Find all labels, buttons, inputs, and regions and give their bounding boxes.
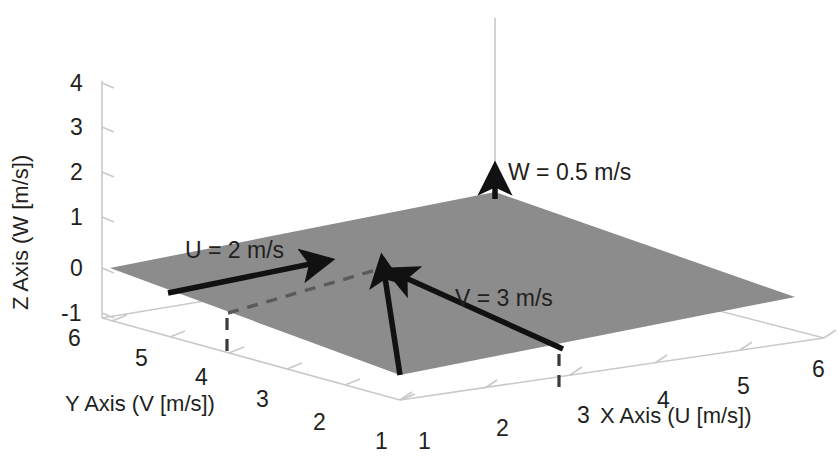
z-tick-label: 1 — [70, 206, 83, 229]
u-vector-label: U = 2 m/s — [185, 239, 284, 262]
figure-3d-velocity-vectors: 4 3 2 1 0 -1 6 5 4 3 2 1 1 2 3 4 5 6 Z A… — [0, 0, 839, 461]
z-axis-ticks — [102, 83, 114, 318]
z-tick-label: 0 — [70, 257, 83, 280]
y-tick-label: 3 — [256, 388, 269, 411]
x-tick-label: 6 — [812, 358, 825, 381]
z-tick-label: 2 — [70, 161, 83, 184]
x-tick-label: 5 — [737, 375, 750, 398]
z-tick-label: 4 — [70, 72, 83, 95]
y-axis-title: Y Axis (V [m/s]) — [65, 393, 215, 415]
z-tick-label: 3 — [70, 116, 83, 139]
x-tick-label: 3 — [577, 404, 590, 427]
y-tick-label: 6 — [68, 327, 81, 350]
x-axis-title: X Axis (U [m/s]) — [600, 405, 752, 427]
z-tick-label: -1 — [61, 302, 81, 325]
w-vector-label: W = 0.5 m/s — [508, 161, 631, 184]
x-tick-label: 2 — [496, 417, 509, 440]
y-tick-label: 4 — [195, 366, 208, 389]
x-tick-label: 1 — [418, 430, 431, 453]
y-tick-label: 1 — [375, 430, 388, 453]
v-vector-label: V = 3 m/s — [455, 287, 553, 310]
y-tick-label: 5 — [135, 347, 148, 370]
z-axis-title: Z Axis (W [m/s]) — [10, 155, 32, 310]
y-tick-label: 2 — [313, 411, 326, 434]
